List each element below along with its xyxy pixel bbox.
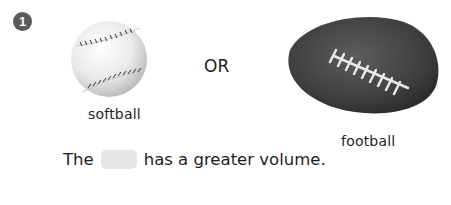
or-separator: OR [204,56,230,76]
softball-image[interactable] [70,20,148,98]
question-number-badge: 1 [13,12,32,31]
football-image[interactable] [286,12,442,116]
football-label: football [341,133,395,149]
answer-sentence: The has a greater volume. [63,150,326,169]
sentence-start: The [63,150,94,169]
sentence-end: has a greater volume. [144,150,326,169]
softball-label: softball [88,106,141,122]
answer-blank[interactable] [101,150,137,169]
